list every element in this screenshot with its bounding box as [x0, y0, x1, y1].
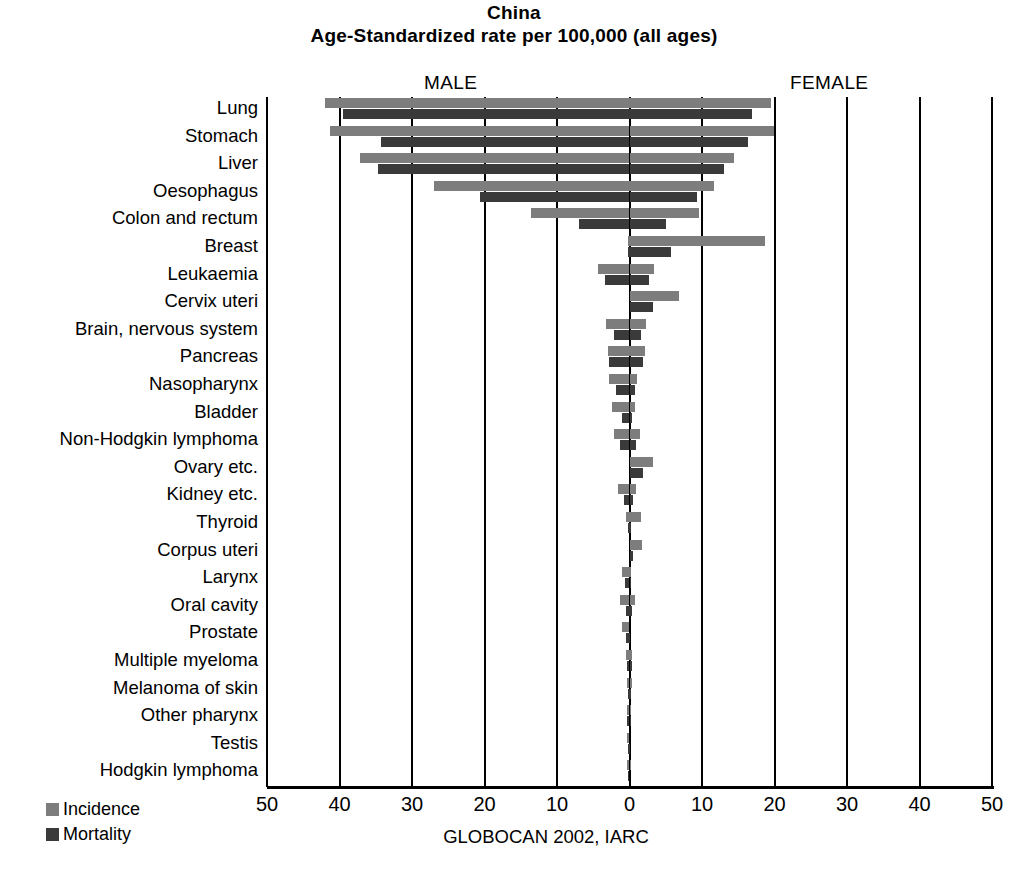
category-label: Other pharynx	[0, 705, 258, 725]
chart-row	[267, 345, 992, 374]
bar-right-mort	[630, 109, 753, 119]
bar-left-mort	[480, 192, 629, 202]
x-axis-tick	[339, 770, 341, 787]
chart-row	[267, 566, 992, 595]
bar-right-mort	[630, 716, 632, 726]
bar-right-inc	[630, 98, 771, 108]
category-label: Leukaemia	[0, 264, 258, 284]
bar-right-inc	[630, 402, 635, 412]
bar-right-inc	[630, 457, 653, 467]
category-label: Multiple myeloma	[0, 650, 258, 670]
x-axis-tick-label: 30	[827, 793, 867, 816]
x-axis-tick-label: 10	[682, 793, 722, 816]
bar-right-mort	[630, 689, 632, 699]
x-axis-tick	[846, 770, 848, 787]
source-text: GLOBOCAN 2002, IARC	[443, 826, 649, 847]
bar-left-inc	[627, 733, 629, 743]
category-label: Prostate	[0, 622, 258, 642]
x-axis-tick-label: 50	[972, 793, 1012, 816]
bar-right-inc	[630, 374, 638, 384]
chart-row	[267, 456, 992, 485]
bar-right-inc	[630, 319, 647, 329]
chart-row	[267, 428, 992, 457]
bar-right-inc	[630, 678, 632, 688]
bar-left-inc	[598, 264, 629, 274]
x-axis-tick-labels: 504030201001020304050	[0, 793, 1028, 819]
bar-right-inc	[630, 181, 714, 191]
bar-left-mort	[605, 275, 630, 285]
bar-right-mort	[630, 495, 634, 505]
bar-right-mort	[630, 413, 633, 423]
category-label: Kidney etc.	[0, 484, 258, 504]
category-label: Brain, nervous system	[0, 319, 258, 339]
category-label: Liver	[0, 153, 258, 173]
chart-row	[267, 511, 992, 540]
bar-right-mort	[630, 137, 749, 147]
bar-left-mort	[579, 219, 629, 229]
bar-right-inc	[630, 236, 766, 246]
chart-row	[267, 732, 992, 761]
bar-left-mort	[620, 440, 629, 450]
bar-left-inc	[608, 346, 630, 356]
bar-right-mort	[630, 330, 642, 340]
bar-left-inc	[531, 208, 630, 218]
bar-right-inc	[630, 484, 637, 494]
bar-right-inc	[630, 153, 734, 163]
category-label: Hodgkin lymphoma	[0, 760, 258, 780]
category-label: Oesophagus	[0, 181, 258, 201]
bar-right-mort	[630, 661, 632, 671]
bar-right-mort	[630, 357, 644, 367]
bar-left-mort	[378, 164, 630, 174]
bar-right-mort	[630, 440, 637, 450]
category-label: Testis	[0, 733, 258, 753]
x-axis-tick-label: 40	[320, 793, 360, 816]
bar-left-inc	[606, 319, 630, 329]
x-axis-tick	[411, 770, 413, 787]
category-label: Oral cavity	[0, 595, 258, 615]
bar-left-inc	[622, 622, 630, 632]
x-axis-tick-label: 20	[755, 793, 795, 816]
x-axis-tick-label: 50	[247, 793, 287, 816]
bar-left-mort	[614, 330, 630, 340]
source-note: GLOBOCAN 2002, IARC	[0, 826, 1028, 848]
chart-row	[267, 97, 992, 126]
bar-left-mort	[616, 385, 630, 395]
category-label: Ovary etc.	[0, 457, 258, 477]
legend-label-incidence: Incidence	[63, 799, 140, 820]
bar-right-inc	[630, 760, 632, 770]
chart-row	[267, 180, 992, 209]
bar-right-inc	[630, 208, 700, 218]
bar-left-mort	[626, 633, 630, 643]
chart-row	[267, 290, 992, 319]
category-label: Non-Hodgkin lymphoma	[0, 429, 258, 449]
bar-left-inc	[325, 98, 630, 108]
category-label: Lung	[0, 98, 258, 118]
chart-row	[267, 263, 992, 292]
bar-left-mort	[628, 744, 630, 754]
x-axis-tick	[556, 770, 558, 787]
bar-right-mort	[630, 247, 671, 257]
category-label: Thyroid	[0, 512, 258, 532]
chart-row	[267, 483, 992, 512]
female-panel-label: FEMALE	[790, 72, 868, 94]
bar-right-inc	[630, 512, 642, 522]
x-axis-tick-label: 10	[537, 793, 577, 816]
x-axis-tick-label: 0	[610, 793, 650, 816]
bar-right-mort	[630, 523, 632, 533]
category-label: Colon and rectum	[0, 208, 258, 228]
x-axis-tick	[484, 770, 486, 787]
bar-right-inc	[630, 705, 632, 715]
bar-right-inc	[630, 567, 632, 577]
x-axis-tick	[701, 770, 703, 787]
chart-row	[267, 235, 992, 264]
bar-right-inc	[630, 540, 642, 550]
category-label: Pancreas	[0, 346, 258, 366]
chart-row	[267, 649, 992, 678]
bar-left-inc	[609, 374, 629, 384]
bar-right-mort	[630, 192, 697, 202]
bar-right-inc	[630, 429, 641, 439]
x-axis-tick-label: 30	[392, 793, 432, 816]
chart-row	[267, 125, 992, 154]
chart-row	[267, 704, 992, 733]
chart-container: China Age-Standardized rate per 100,000 …	[0, 0, 1028, 882]
